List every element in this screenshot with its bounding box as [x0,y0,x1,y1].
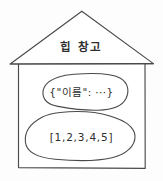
object-literal-label: {"이름": ···} [0,84,163,99]
heap-storage-title: 힙 창고 [0,38,163,54]
diagram-canvas: 힙 창고 {"이름": ···} [1,2,3,4,5] [0,0,163,181]
array-literal-label: [1,2,3,4,5] [0,131,163,143]
